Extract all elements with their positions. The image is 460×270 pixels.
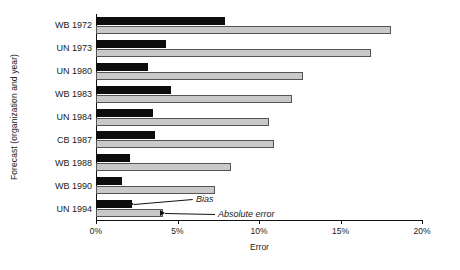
category-label: WB 1983 bbox=[30, 89, 92, 99]
bar-absolute-error bbox=[96, 186, 215, 194]
bar-bias bbox=[96, 154, 130, 162]
x-axis-tick bbox=[96, 220, 97, 224]
bar-absolute-error bbox=[96, 72, 303, 80]
bar-bias bbox=[96, 177, 122, 185]
bar-absolute-error bbox=[96, 49, 371, 57]
bar-bias bbox=[96, 40, 166, 48]
x-axis-tick-label: 10% bbox=[239, 226, 279, 236]
category-label: UN 1984 bbox=[30, 112, 92, 122]
category-label: WB 1988 bbox=[30, 158, 92, 168]
plot-area: 0%5%10%15%20% Error bbox=[96, 14, 422, 220]
x-axis-tick-label: 0% bbox=[76, 226, 116, 236]
x-axis-title: Error bbox=[96, 242, 423, 252]
bar-bias bbox=[96, 131, 155, 139]
bar-absolute-error bbox=[96, 26, 391, 34]
x-axis-tick-label: 5% bbox=[158, 226, 198, 236]
bar-bias bbox=[96, 17, 225, 25]
x-axis-tick bbox=[341, 220, 342, 224]
x-axis-tick-label: 20% bbox=[402, 226, 442, 236]
bar-bias bbox=[96, 109, 153, 117]
bar-chart: Forecast (organization and year) WB 1972… bbox=[0, 0, 460, 270]
category-label: UN 1980 bbox=[30, 66, 92, 76]
category-label: WB 1972 bbox=[30, 20, 92, 30]
y-axis-title: Forecast (organization and year) bbox=[9, 17, 19, 217]
annotation-bias: Bias bbox=[196, 194, 214, 204]
x-axis-tick bbox=[259, 220, 260, 224]
x-axis-tick-label: 15% bbox=[321, 226, 361, 236]
bar-absolute-error bbox=[96, 163, 231, 171]
annotation-absolute-error: Absolute error bbox=[218, 209, 275, 219]
bar-bias bbox=[96, 200, 132, 208]
category-label: CB 1987 bbox=[30, 135, 92, 145]
bar-absolute-error bbox=[96, 140, 274, 148]
bar-bias bbox=[96, 63, 148, 71]
y-axis-tick-labels: WB 1972UN 1973UN 1980WB 1983UN 1984CB 19… bbox=[30, 14, 92, 220]
x-axis-tick bbox=[178, 220, 179, 224]
category-label: WB 1990 bbox=[30, 181, 92, 191]
leader-arrowhead bbox=[160, 210, 165, 216]
category-label: UN 1973 bbox=[30, 43, 92, 53]
bar-bias bbox=[96, 86, 171, 94]
category-label: UN 1994 bbox=[30, 204, 92, 214]
bar-absolute-error bbox=[96, 95, 292, 103]
bar-absolute-error bbox=[96, 209, 163, 217]
bar-absolute-error bbox=[96, 118, 269, 126]
x-axis-tick bbox=[422, 220, 423, 224]
leader-arrowhead bbox=[129, 201, 134, 207]
